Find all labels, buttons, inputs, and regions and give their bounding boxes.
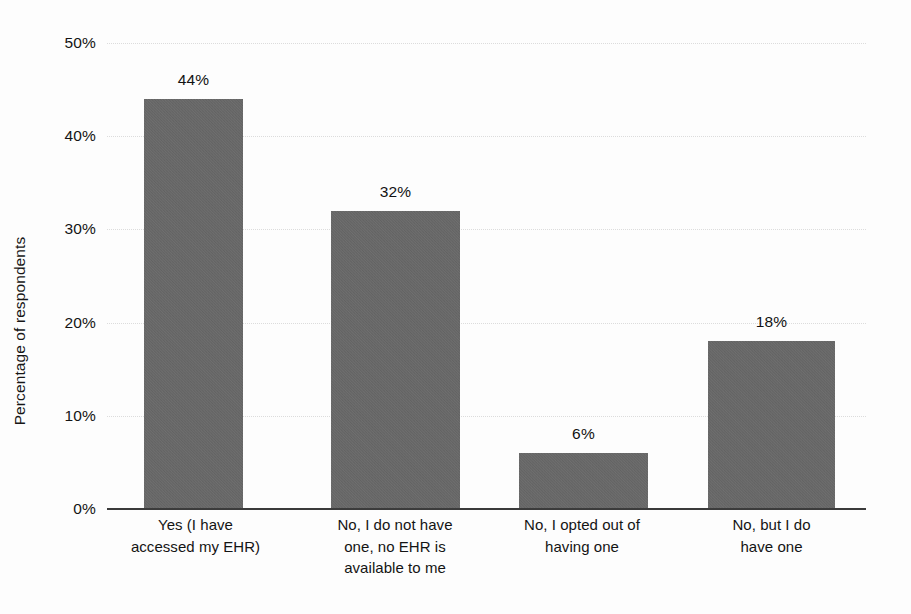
gridline xyxy=(107,43,866,44)
x-axis-tick-label-line: No, I opted out of xyxy=(487,514,677,536)
bar-value-label: 18% xyxy=(708,313,835,331)
y-axis-tick-label: 10% xyxy=(15,407,107,425)
x-axis-tick-label: No, I opted out ofhaving one xyxy=(487,514,677,557)
bar-value-label: 44% xyxy=(144,71,243,89)
bar xyxy=(708,341,835,509)
bar-value-label: 32% xyxy=(331,183,460,201)
y-axis-tick-label: 0% xyxy=(15,500,107,518)
y-axis-tick-label: 20% xyxy=(15,314,107,332)
x-axis-tick-label-line: have one xyxy=(680,536,863,558)
x-axis-tick-label-line: having one xyxy=(487,536,677,558)
x-axis-tick-label-line: available to me xyxy=(300,557,490,579)
x-axis-tick-label-line: No, but I do xyxy=(680,514,863,536)
x-axis-tick-label-line: No, I do not have xyxy=(300,514,490,536)
x-axis-tick-label: No, but I dohave one xyxy=(680,514,863,557)
x-axis-tick-label: No, I do not haveone, no EHR isavailable… xyxy=(300,514,490,579)
y-axis-tick-label: 50% xyxy=(15,34,107,52)
bar-value-label: 6% xyxy=(519,425,648,443)
y-axis-tick-label: 30% xyxy=(15,220,107,238)
bar xyxy=(144,99,243,509)
y-axis-tick-labels: 0%10%20%30%40%50% xyxy=(0,43,107,509)
bar-chart: Percentage of respondents 0%10%20%30%40%… xyxy=(0,0,911,614)
bar xyxy=(519,453,648,509)
x-axis-tick-label-line: accessed my EHR) xyxy=(118,536,273,558)
x-axis-tick-label: Yes (I haveaccessed my EHR) xyxy=(118,514,273,557)
x-axis-line xyxy=(107,508,866,510)
plot-area: 44%32%6%18% xyxy=(107,43,866,509)
x-axis-tick-label-line: one, no EHR is xyxy=(300,536,490,558)
x-axis-tick-label-line: Yes (I have xyxy=(118,514,273,536)
bar xyxy=(331,211,460,509)
y-axis-tick-label: 40% xyxy=(15,127,107,145)
